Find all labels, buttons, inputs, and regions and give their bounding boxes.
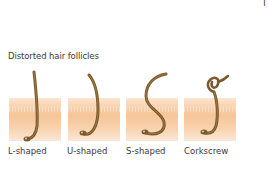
label-corkscrew: Corkscrew (184, 146, 228, 156)
corkscrew-hair-icon (180, 60, 250, 150)
corner-partial-text: T (262, 0, 267, 8)
label-s-shaped: S-shaped (126, 146, 166, 156)
label-u-shaped: U-shaped (67, 146, 107, 156)
label-l-shaped: L-shaped (8, 146, 47, 156)
